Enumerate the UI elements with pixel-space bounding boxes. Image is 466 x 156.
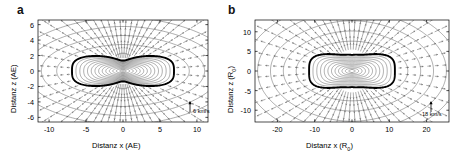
panel-b-x-axis-title: Distanz x (R0): [306, 141, 353, 152]
panel-b-y-tick-label: 0: [233, 67, 251, 76]
panel-a-y-tick-label: -6: [16, 113, 34, 122]
panel-a-x-tick-label: -10: [44, 125, 54, 134]
panel-b-y-tick-label: -10: [233, 106, 251, 115]
panel-a-x-tick-label: -5: [83, 125, 89, 134]
panel-b-x-tick-label: -10: [309, 125, 319, 134]
panel-a-y-tick-label: -4: [16, 97, 34, 106]
panel-a-x-tick-label: 5: [158, 125, 162, 134]
panel-b-letter: b: [228, 3, 235, 17]
panel-b-x-axis-title-main: Distanz x (R: [306, 141, 347, 150]
panel-b-x-tick-label: 20: [423, 125, 431, 134]
panel-a-x-tick-label: 0: [121, 125, 125, 134]
panel-b-y-tick-label: 10: [233, 27, 251, 36]
panel-a-y-tick-label: 6: [16, 20, 34, 29]
panel-b-scale-arrow-label: 18 km/s: [422, 111, 442, 117]
panel-b-y-tick-label: 5: [233, 47, 251, 56]
panel-a-scale-arrow-label: 6 km/s: [193, 108, 209, 114]
panel-b-x-tick-label: 0: [350, 125, 354, 134]
panel-a-y-tick-label: 0: [16, 67, 34, 76]
panel-b-x-tick-label: 10: [385, 125, 393, 134]
panel-a-letter: a: [17, 3, 24, 17]
panel-b-x-tick-label: -20: [272, 125, 282, 134]
panel-b-x-axis-title-suffix: ): [350, 141, 353, 150]
panel-a-y-tick-label: 4: [16, 36, 34, 45]
panel-a-x-tick-label: 10: [193, 125, 201, 134]
panel-a-y-tick-label: -2: [16, 82, 34, 91]
panel-a-x-axis-title: Distanz x (AE): [92, 141, 141, 150]
panel-a-y-tick-label: 2: [16, 51, 34, 60]
panel-b-y-tick-label: -5: [233, 86, 251, 95]
